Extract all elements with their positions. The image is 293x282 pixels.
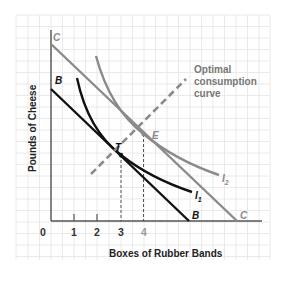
x-tick-label-1: 1 xyxy=(71,226,77,238)
optimal-label-line1: Optimal xyxy=(194,64,231,75)
grid xyxy=(16,15,270,260)
label-b-top: B xyxy=(55,75,62,86)
label-c-bottom: C xyxy=(240,210,248,221)
x-tick-label-4: 4 xyxy=(141,226,147,238)
label-i2: I2 xyxy=(222,173,229,186)
label-c-top: C xyxy=(53,32,61,43)
optimal-label-line3: curve xyxy=(194,88,221,99)
x-axis-title: Boxes of Rubber Bands xyxy=(109,248,223,259)
label-point-e: E xyxy=(152,130,159,141)
indifference-curve-diagram: 0 1 2 3 4 Pounds of Cheese Boxes of Rubb… xyxy=(0,0,293,282)
point-t-marker xyxy=(119,153,123,157)
y-axis-title: Pounds of Cheese xyxy=(27,84,38,172)
label-b-bottom: B xyxy=(192,210,199,221)
optimal-label-line2: consumption xyxy=(194,76,257,87)
point-e-marker xyxy=(141,132,145,136)
x-tick-label-0: 0 xyxy=(40,226,46,238)
x-tick-label-3: 3 xyxy=(118,226,124,238)
label-i1: I1 xyxy=(195,190,202,203)
x-tick-label-2: 2 xyxy=(94,226,100,238)
label-point-t: T xyxy=(115,142,122,153)
